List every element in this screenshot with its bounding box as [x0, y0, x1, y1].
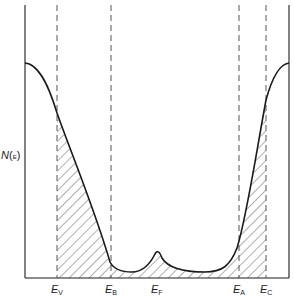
label-EF: EF — [151, 284, 163, 296]
label-EV: EV — [51, 284, 63, 296]
hatched-localized-states — [25, 63, 289, 278]
dos-diagram — [0, 0, 294, 297]
y-axis-label: N(E) — [1, 149, 20, 161]
label-EB: EB — [105, 284, 117, 296]
label-EC: EC — [260, 284, 272, 296]
label-EA: EA — [233, 284, 245, 296]
